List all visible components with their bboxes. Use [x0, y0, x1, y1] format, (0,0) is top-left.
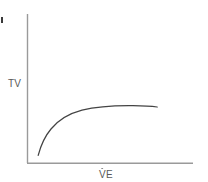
- y-axis-label: TV: [8, 79, 21, 89]
- tv-ve-curve: [38, 106, 157, 156]
- x-axis-label-v-with-dot-icon: V: [99, 170, 106, 180]
- x-axis-label-subscript: E: [106, 169, 113, 180]
- plot-area: [0, 0, 208, 182]
- respiratory-curve-figure: TV VE: [0, 0, 208, 182]
- x-axis-label: VE: [99, 170, 113, 180]
